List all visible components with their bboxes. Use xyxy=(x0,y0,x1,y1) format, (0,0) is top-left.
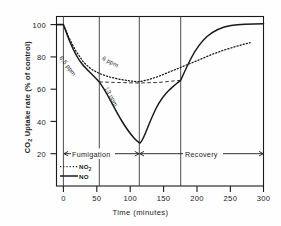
x-tick-label-250: 250 xyxy=(217,194,243,203)
legend-label-no-prefix: NO xyxy=(79,173,89,180)
legend-label-no2: NO2 xyxy=(79,163,91,172)
y-tick-label-80: 80 xyxy=(20,53,46,62)
y-tick-label-60: 60 xyxy=(20,85,46,94)
x-tick-label-300: 300 xyxy=(251,194,277,203)
x-tick-label-100: 100 xyxy=(117,194,143,203)
y-axis-title-sub: 2 xyxy=(27,139,33,142)
x-axis-ticks xyxy=(63,186,263,192)
y-tick-label-20: 20 xyxy=(20,150,46,159)
y-axis-ticks xyxy=(51,25,57,154)
chart-plot-area xyxy=(0,0,281,226)
x-tick-label-200: 200 xyxy=(184,194,210,203)
vertical-divider-lines xyxy=(63,17,180,187)
x-tick-label-0: 0 xyxy=(50,194,76,203)
legend-label-no: NO xyxy=(79,173,89,180)
legend-label-no2-sub: 2 xyxy=(89,167,92,172)
x-tick-label-150: 150 xyxy=(151,194,177,203)
y-tick-label-100: 100 xyxy=(20,21,46,30)
series-no-line xyxy=(57,24,264,143)
y-tick-label-40: 40 xyxy=(20,118,46,127)
x-axis-title: Time (minutes) xyxy=(0,208,281,217)
x-tick-label-50: 50 xyxy=(84,194,110,203)
span-label-fumigation: Fumigation xyxy=(72,150,111,159)
series-no2-baseline-dashed xyxy=(99,80,180,83)
span-label-recovery: Recovery xyxy=(185,150,218,159)
legend-label-no2-prefix: NO xyxy=(79,163,89,170)
legend-swatches xyxy=(60,167,78,177)
series-no2-line xyxy=(57,25,251,82)
chart-figure: CO2 Uptake rate (% of control) Time (min… xyxy=(0,0,281,226)
